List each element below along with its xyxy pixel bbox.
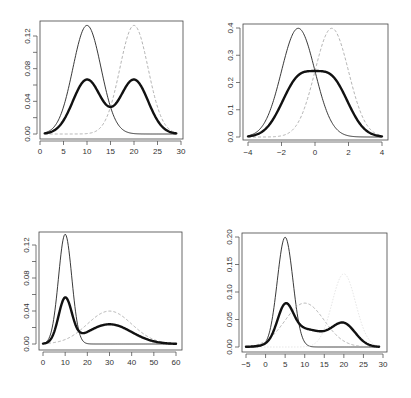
y-tick-label: 0.00 <box>225 339 234 355</box>
series-mixture <box>246 303 379 347</box>
series-component-1 <box>248 28 382 137</box>
x-tick-label: −4 <box>243 148 253 157</box>
chart-canvas: 0510152025300.000.040.080.12−4−20240.00.… <box>0 0 411 398</box>
x-tick-label: −2 <box>277 148 287 157</box>
x-axis: −5051015202530 <box>241 354 388 369</box>
plot-frame <box>242 233 387 352</box>
x-tick-label: 20 <box>130 147 139 156</box>
x-tick-label: 20 <box>83 358 92 367</box>
series-component-2 <box>246 303 379 347</box>
x-tick-label: 60 <box>172 358 181 367</box>
chart-panel-top-left: 0510152025300.000.040.080.12 <box>23 21 186 156</box>
x-tick-label: 10 <box>83 147 92 156</box>
series-component-2 <box>248 28 382 137</box>
y-tick-label: 0.00 <box>23 126 32 142</box>
y-axis: 0.000.040.080.12 <box>22 237 36 352</box>
y-tick-label: 0.04 <box>22 303 31 319</box>
x-tick-label: 30 <box>177 147 186 156</box>
series-component-1 <box>43 234 176 344</box>
y-tick-label: 0.1 <box>226 104 235 116</box>
x-tick-label: −5 <box>241 360 251 369</box>
y-axis: 0.00.10.20.30.4 <box>226 22 240 143</box>
x-tick-label: 0 <box>41 358 46 367</box>
x-axis: 051015202530 <box>38 141 186 156</box>
y-tick-label: 0.20 <box>225 229 234 245</box>
y-tick-label: 0.08 <box>23 60 32 76</box>
x-tick-label: 25 <box>153 147 162 156</box>
x-axis: 0102030405060 <box>41 352 181 367</box>
y-tick-label: 0.2 <box>226 76 235 88</box>
plot-frame <box>40 21 183 139</box>
x-tick-label: 20 <box>339 360 348 369</box>
y-tick-label: 0.12 <box>22 237 31 253</box>
y-tick-label: 0.10 <box>225 284 234 300</box>
x-axis: −4−2024 <box>243 142 384 157</box>
x-tick-label: 0 <box>38 147 43 156</box>
y-tick-label: 0.0 <box>226 131 235 143</box>
x-tick-label: 15 <box>320 360 329 369</box>
x-tick-label: 0 <box>313 148 318 157</box>
y-tick-label: 0.15 <box>225 256 234 272</box>
y-tick-label: 0.05 <box>225 311 234 327</box>
x-tick-label: 30 <box>379 360 388 369</box>
x-tick-label: 30 <box>105 358 114 367</box>
chart-panel-bottom-left: 01020304050600.000.040.080.12 <box>22 232 182 367</box>
y-tick-label: 0.00 <box>22 336 31 352</box>
chart-panel-top-right: −4−20240.00.10.20.30.4 <box>226 22 388 157</box>
series-mixture <box>45 80 177 134</box>
y-axis: 0.000.050.100.150.20 <box>225 229 239 355</box>
y-tick-label: 0.08 <box>22 270 31 286</box>
x-tick-label: 15 <box>106 147 115 156</box>
x-tick-label: 40 <box>127 358 136 367</box>
y-axis: 0.000.040.080.12 <box>23 28 37 142</box>
y-tick-label: 0.3 <box>226 49 235 61</box>
x-tick-label: 10 <box>300 360 309 369</box>
chart-panel-bottom-right: −50510152025300.000.050.100.150.20 <box>225 229 388 369</box>
x-tick-label: 5 <box>61 147 66 156</box>
y-tick-label: 0.12 <box>23 28 32 44</box>
series-component-2 <box>43 311 176 344</box>
series-mixture <box>43 297 176 343</box>
x-tick-label: 5 <box>283 360 288 369</box>
x-tick-label: 4 <box>380 148 385 157</box>
x-tick-label: 50 <box>149 358 158 367</box>
series-mixture <box>248 71 382 136</box>
y-tick-label: 0.04 <box>23 93 32 109</box>
x-tick-label: 0 <box>263 360 268 369</box>
y-tick-label: 0.4 <box>226 22 235 34</box>
x-tick-label: 25 <box>359 360 368 369</box>
x-tick-label: 10 <box>61 358 70 367</box>
x-tick-label: 2 <box>346 148 351 157</box>
plot-frame <box>39 232 182 350</box>
